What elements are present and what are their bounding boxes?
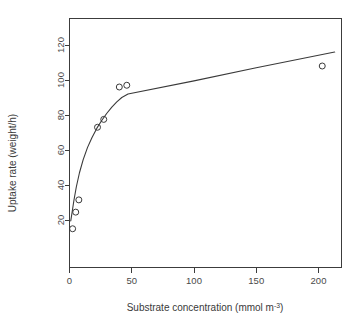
uptake-rate-scatter-plot: 20406080100120 050100150200 Uptake rate …: [0, 0, 359, 326]
chart-figure: 20406080100120 050100150200 Uptake rate …: [0, 0, 359, 326]
x-tick-label: 50: [126, 275, 137, 286]
x-tick-label: 150: [248, 275, 264, 286]
x-tick-label: 0: [67, 275, 72, 286]
figure-background: [0, 0, 359, 326]
y-tick-label: 60: [55, 145, 66, 156]
x-tick-label: 100: [186, 275, 202, 286]
y-tick-label: 80: [55, 110, 66, 121]
y-tick-label: 20: [55, 215, 66, 226]
x-axis-title-tail: ): [280, 302, 283, 313]
x-axis-title: Substrate concentration (mmol m-3): [127, 302, 284, 314]
x-axis-title-main: Substrate concentration (mmol m: [127, 302, 274, 313]
y-axis-title-group: Uptake rate (weight/h): [7, 114, 18, 212]
x-axis-title-group: Substrate concentration (mmol m-3): [127, 302, 284, 314]
x-tick-label: 200: [311, 275, 327, 286]
y-axis-title: Uptake rate (weight/h): [7, 114, 18, 212]
y-tick-label: 100: [55, 72, 66, 88]
y-tick-label: 120: [55, 37, 66, 53]
y-tick-label: 40: [55, 180, 66, 191]
